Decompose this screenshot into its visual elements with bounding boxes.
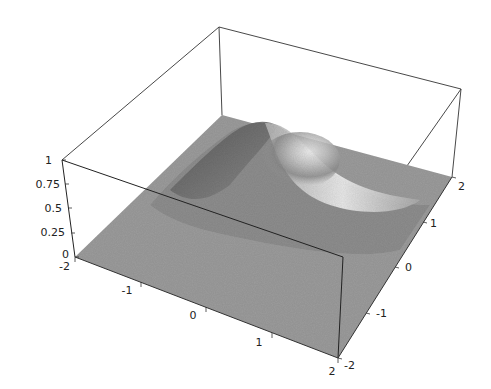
x-tick-neg1: -1 bbox=[122, 284, 133, 297]
z-axis-labels: 1 0.75 0.5 0.25 0 bbox=[36, 154, 70, 261]
y-tick-neg1: -1 bbox=[376, 307, 387, 320]
y-tick-1: 1 bbox=[430, 217, 437, 230]
surface-plot: 1 0.75 0.5 0.25 0 -2 -1 0 1 2 -2 -1 0 1 … bbox=[0, 0, 491, 389]
z-tick-075: 0.75 bbox=[36, 178, 61, 191]
x-tick-1: 1 bbox=[256, 336, 263, 349]
x-tick-2: 2 bbox=[329, 365, 336, 378]
plot-canvas: 1 0.75 0.5 0.25 0 -2 -1 0 1 2 -2 -1 0 1 … bbox=[0, 0, 491, 389]
x-tick-neg2: -2 bbox=[59, 260, 70, 273]
y-tick-0: 0 bbox=[405, 261, 412, 274]
y-tick-neg2: -2 bbox=[344, 359, 355, 372]
z-tick-05: 0.5 bbox=[45, 202, 63, 215]
z-tick-1: 1 bbox=[45, 154, 52, 167]
x-tick-0: 0 bbox=[190, 309, 197, 322]
z-tick-025: 0.25 bbox=[41, 226, 66, 239]
y-tick-2: 2 bbox=[458, 180, 465, 193]
